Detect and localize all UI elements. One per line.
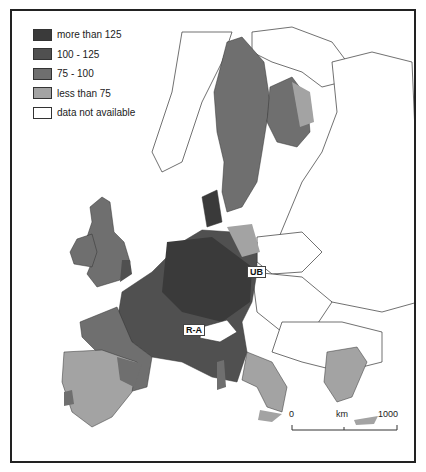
legend-swatch bbox=[33, 29, 52, 41]
map-frame: more than 125 100 - 125 75 - 100 less th… bbox=[10, 9, 416, 463]
denmark bbox=[202, 190, 222, 227]
legend-label: less than 75 bbox=[57, 88, 111, 99]
legend: more than 125 100 - 125 75 - 100 less th… bbox=[33, 25, 135, 123]
greece bbox=[324, 347, 367, 402]
legend-item: more than 125 bbox=[33, 25, 135, 45]
ireland bbox=[70, 234, 97, 267]
legend-swatch bbox=[33, 68, 52, 80]
legend-item: data not available bbox=[33, 103, 135, 123]
legend-item: less than 75 bbox=[33, 84, 135, 104]
uk-south-east bbox=[120, 260, 132, 282]
legend-label: 100 - 125 bbox=[57, 49, 99, 60]
legend-item: 100 - 125 bbox=[33, 45, 135, 65]
italy-south bbox=[242, 352, 287, 412]
legend-label: 75 - 100 bbox=[57, 68, 94, 79]
label-ra: R-A bbox=[183, 324, 205, 336]
scale-line bbox=[280, 405, 400, 445]
legend-swatch bbox=[33, 48, 52, 60]
legend-swatch bbox=[33, 87, 52, 99]
legend-item: 75 - 100 bbox=[33, 64, 135, 84]
legend-swatch bbox=[33, 107, 52, 119]
legend-label: data not available bbox=[57, 107, 135, 118]
label-ub: UB bbox=[247, 266, 266, 278]
legend-label: more than 125 bbox=[57, 29, 122, 40]
sicily bbox=[258, 410, 282, 422]
sweden bbox=[214, 37, 270, 212]
scale-bar: 0 km 1000 bbox=[280, 405, 400, 445]
